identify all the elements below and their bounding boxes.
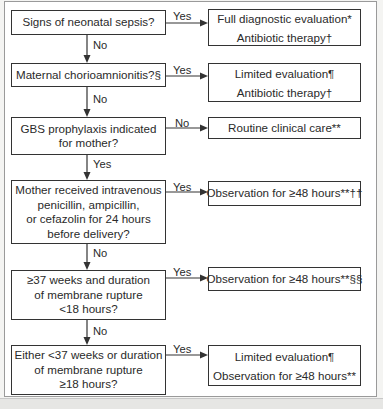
- outcome-text: Antibiotic therapy†: [237, 28, 332, 47]
- branch-label-q1-yes: Yes: [173, 10, 191, 22]
- decision-text: of membrane rupture: [34, 288, 142, 303]
- branch-label-q2-no: No: [93, 93, 107, 105]
- branch-label-q1-no: No: [93, 39, 107, 51]
- decision-neonatal-sepsis: Signs of neonatal sepsis?: [11, 10, 166, 35]
- decision-text: <18 hours?: [59, 302, 117, 317]
- outcome-text: Limited evaluation¶: [235, 347, 335, 366]
- outcome-text: Routine clinical care**: [228, 121, 341, 136]
- outcome-limited-evaluation-observation: Limited evaluation¶ Observation for ≥48 …: [208, 345, 361, 386]
- decision-term-short-rupture: ≥37 weeks and duration of membrane ruptu…: [11, 270, 166, 320]
- branch-label-q2-yes: Yes: [173, 64, 191, 76]
- branch-label-q4-yes: Yes: [173, 181, 191, 193]
- branch-label-q5-yes: Yes: [173, 266, 191, 278]
- outcome-text: Limited evaluation¶: [235, 64, 335, 83]
- outcome-text: Observation for ≥48 hours**: [213, 366, 356, 385]
- outcome-observation-48h-b: Observation for ≥48 hours**§§: [208, 267, 361, 291]
- outcome-limited-evaluation-antibiotics: Limited evaluation¶ Antibiotic therapy†: [208, 63, 361, 102]
- decision-text: GBS prophylaxis indicated: [21, 122, 157, 137]
- outcome-text: Antibiotic therapy†: [237, 83, 332, 102]
- decision-text: Mother received intravenous: [15, 183, 161, 198]
- decision-text: of membrane rupture: [34, 363, 142, 378]
- decision-text: before delivery?: [47, 227, 130, 242]
- decision-text: or cefazolin for 24 hours: [26, 212, 150, 227]
- branch-label-q4-no: No: [93, 247, 107, 259]
- decision-text: for mother?: [59, 136, 118, 151]
- decision-text: penicillin, ampicillin,: [38, 198, 140, 213]
- decision-gbs-prophylaxis: GBS prophylaxis indicated for mother?: [11, 117, 166, 155]
- outcome-routine-care: Routine clinical care**: [208, 117, 361, 139]
- decision-text: ≥18 hours?: [60, 377, 118, 392]
- outcome-observation-48h-a: Observation for ≥48 hours**††: [208, 181, 361, 206]
- decision-iv-antibiotics: Mother received intravenous penicillin, …: [11, 180, 166, 244]
- branch-label-q6-yes: Yes: [173, 343, 191, 355]
- branch-label-q3-yes: Yes: [93, 158, 111, 170]
- decision-preterm-or-long-rupture: Either <37 weeks or duration of membrane…: [11, 345, 166, 395]
- decision-text: Either <37 weeks or duration: [15, 348, 163, 363]
- outcome-text: Observation for ≥48 hours**††: [207, 186, 363, 201]
- decision-chorioamnionitis: Maternal chorioamnionitis?§: [11, 63, 166, 87]
- decision-text: Maternal chorioamnionitis?§: [16, 68, 161, 83]
- decision-text: Signs of neonatal sepsis?: [22, 15, 154, 30]
- bottom-strip: [0, 398, 383, 409]
- branch-label-q3-no: No: [175, 117, 189, 129]
- outcome-full-evaluation: Full diagnostic evaluation* Antibiotic t…: [208, 9, 361, 46]
- outcome-text: Observation for ≥48 hours**§§: [207, 272, 363, 287]
- outcome-text: Full diagnostic evaluation*: [217, 9, 352, 28]
- branch-label-q5-no: No: [93, 325, 107, 337]
- decision-text: ≥37 weeks and duration: [27, 273, 150, 288]
